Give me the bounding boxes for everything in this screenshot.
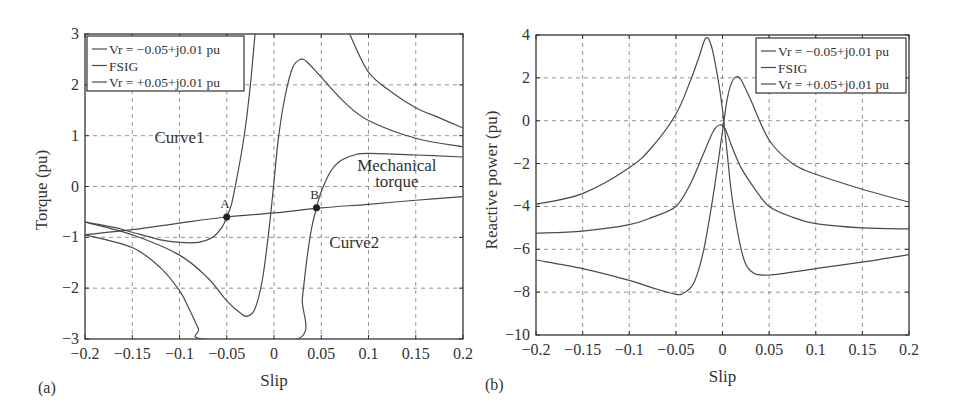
operating-point-A <box>223 214 230 221</box>
panel-label: (a) <box>38 379 56 397</box>
annotation: B <box>310 187 319 202</box>
x-tick-label: −0.2 <box>521 341 550 358</box>
x-tick-label: 0 <box>719 341 727 358</box>
legend-entry: Vr = +0.05+j0.01 pu <box>778 77 889 92</box>
legend-entry: Vr = −0.05+j0.01 pu <box>109 42 220 57</box>
y-tick-label: 2 <box>522 69 530 86</box>
x-axis-label: Slip <box>709 367 736 386</box>
x-tick-label: 0 <box>270 345 278 362</box>
legend-entry: FSIG <box>109 59 139 74</box>
x-tick-label: 0.1 <box>806 341 826 358</box>
x-tick-label: 0.05 <box>755 341 783 358</box>
x-tick-label: −0.05 <box>208 345 245 362</box>
x-tick-label: 0.1 <box>359 345 379 362</box>
x-tick-label: −0.15 <box>114 345 151 362</box>
panel-a-torque-chart: −0.2−0.15−0.1−0.0500.050.10.150.23210−1−… <box>32 19 473 397</box>
y-tick-label: 0 <box>522 112 530 129</box>
y-tick-label: −8 <box>513 283 530 300</box>
legend: Vr = −0.05+j0.01 puFSIGVr = +0.05+j0.01 … <box>756 38 906 93</box>
figure: −0.2−0.15−0.1−0.0500.050.10.150.23210−1−… <box>0 0 957 409</box>
x-tick-label: −0.15 <box>564 341 601 358</box>
x-tick-label: 0.2 <box>899 341 919 358</box>
legend-entry: Vr = +0.05+j0.01 pu <box>109 75 220 90</box>
panel-label: (b) <box>485 376 504 394</box>
y-tick-label: −6 <box>513 240 530 257</box>
x-tick-label: 0.05 <box>307 345 335 362</box>
y-tick-label: 3 <box>71 25 79 42</box>
y-axis-label: Torque (pu) <box>32 150 51 230</box>
y-tick-label: −1 <box>62 228 79 245</box>
operating-point-B <box>313 204 320 211</box>
y-tick-label: −3 <box>62 330 79 347</box>
y-axis-label: Reactive power (pu) <box>482 111 501 250</box>
y-tick-label: −4 <box>513 197 530 214</box>
annotation: Curve2 <box>329 233 379 252</box>
y-tick-label: 4 <box>522 26 530 43</box>
x-tick-label: −0.2 <box>70 345 99 362</box>
panel-b-reactive-power-chart: −0.2−0.15−0.1−0.0500.050.10.150.2420−2−4… <box>482 26 919 394</box>
legend-entry: Vr = −0.05+j0.01 pu <box>778 44 889 59</box>
y-tick-label: −2 <box>62 279 79 296</box>
y-tick-label: 0 <box>71 178 79 195</box>
annotation: Curve1 <box>154 128 204 147</box>
y-tick-label: −10 <box>505 326 530 343</box>
x-tick-label: −0.1 <box>615 341 644 358</box>
annotation: A <box>220 196 230 211</box>
annotation: torque <box>375 172 418 191</box>
series-line <box>350 34 463 128</box>
x-tick-label: 0.15 <box>848 341 876 358</box>
x-tick-label: 0.15 <box>402 345 430 362</box>
y-tick-label: 1 <box>71 127 79 144</box>
x-tick-label: 0.2 <box>453 345 473 362</box>
x-axis-label: Slip <box>260 371 287 390</box>
y-tick-label: −2 <box>513 155 530 172</box>
x-tick-label: −0.1 <box>165 345 194 362</box>
x-tick-label: −0.05 <box>657 341 694 358</box>
legend: Vr = −0.05+j0.01 puFSIGVr = +0.05+j0.01 … <box>87 36 244 91</box>
legend-entry: FSIG <box>778 61 808 76</box>
y-tick-label: 2 <box>71 76 79 93</box>
